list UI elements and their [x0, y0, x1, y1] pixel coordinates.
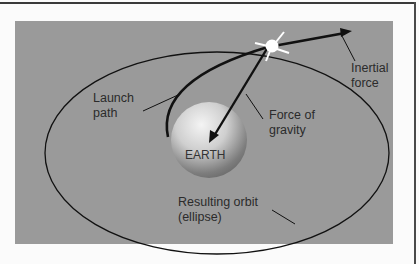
inertial-force-line: [268, 33, 345, 47]
launch-path-label-line1: Launch: [93, 91, 134, 106]
orbit-leader: [272, 210, 295, 224]
force-of-gravity-label-line1: Force of: [269, 108, 315, 123]
inertial-force-label: Inertial force: [351, 61, 389, 91]
resulting-orbit-label-line2: (ellipse): [178, 210, 258, 225]
inertial-arrowhead-icon: [340, 28, 352, 37]
inertial-force-leader: [342, 36, 355, 61]
earth-sphere-icon: [171, 102, 247, 178]
earth-label: EARTH: [185, 148, 225, 163]
resulting-orbit-label: Resulting orbit (ellipse): [178, 195, 258, 225]
force-of-gravity-label: Force of gravity: [269, 108, 315, 138]
launch-path-label: Launch path: [93, 91, 134, 121]
resulting-orbit-label-line1: Resulting orbit: [178, 195, 258, 210]
inertial-force-label-line1: Inertial: [351, 61, 389, 76]
gravity-leader: [246, 94, 263, 119]
force-of-gravity-label-line2: gravity: [269, 123, 315, 138]
inertial-force-arrow: [168, 0, 293, 47]
launch-path-label-line2: path: [93, 106, 134, 121]
inertial-force-label-line2: force: [351, 76, 389, 91]
